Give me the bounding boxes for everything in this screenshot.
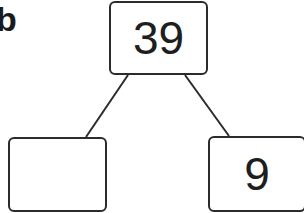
top-number-value: 39 (133, 15, 184, 61)
top-number-box: 39 (109, 1, 208, 75)
right-number-box: 9 (208, 136, 304, 212)
left-answer-box[interactable] (8, 137, 107, 212)
right-number-value: 9 (244, 151, 270, 197)
connector-left (86, 75, 128, 137)
connector-right (185, 75, 229, 136)
